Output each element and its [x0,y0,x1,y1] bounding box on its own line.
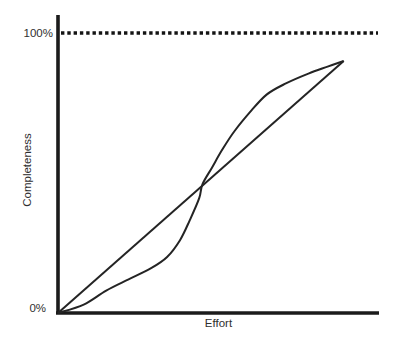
chart-canvas [0,0,399,340]
y-tick-label-100: 100% [10,26,53,40]
completeness-vs-effort-figure: 100% 0% Effort Completeness [0,0,399,340]
x-axis-label: Effort [58,316,379,330]
y-axis-label: Completeness [20,133,34,207]
y-tick-label-0: 0% [10,301,46,315]
